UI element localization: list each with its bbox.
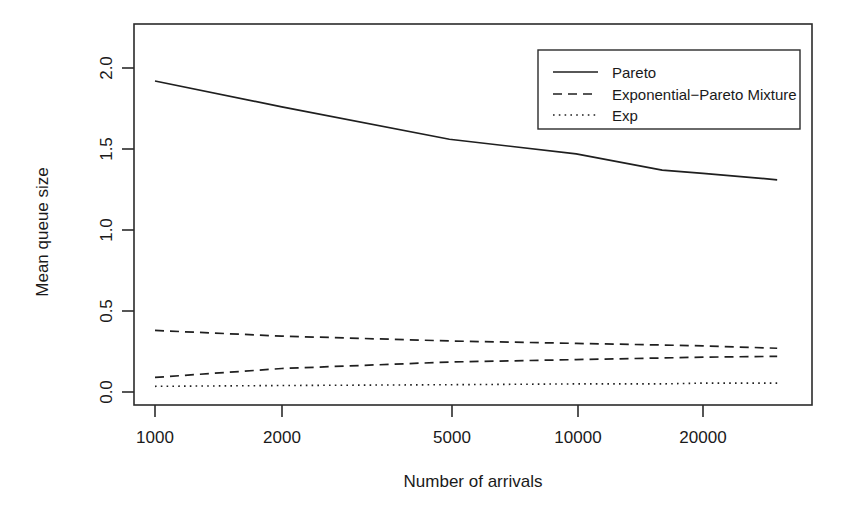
legend-label-pareto: Pareto xyxy=(612,64,656,81)
legend-label-exp: Exp xyxy=(612,107,638,124)
line-chart: 0.0 0.5 1.0 1.5 2.0 Mean queue size 1000… xyxy=(0,0,852,519)
x-tick-label: 20000 xyxy=(679,428,726,447)
x-axis-title: Number of arrivals xyxy=(404,472,543,491)
y-tick-label: 1.5 xyxy=(97,137,116,161)
y-tick-label: 0.5 xyxy=(97,299,116,323)
x-tick-label: 10000 xyxy=(554,428,601,447)
legend-label-mixture: Exponential−Pareto Mixture xyxy=(612,86,797,103)
x-tick-label: 2000 xyxy=(263,428,301,447)
chart-figure: 0.0 0.5 1.0 1.5 2.0 Mean queue size 1000… xyxy=(0,0,852,519)
y-tick-label: 1.0 xyxy=(97,218,116,242)
x-tick-label: 1000 xyxy=(136,428,174,447)
y-tick-label: 2.0 xyxy=(97,56,116,80)
y-axis-title: Mean queue size xyxy=(33,167,52,296)
x-tick-label: 5000 xyxy=(433,428,471,447)
y-tick-label: 0.0 xyxy=(97,380,116,404)
legend: Pareto Exponential−Pareto Mixture Exp xyxy=(538,50,800,129)
